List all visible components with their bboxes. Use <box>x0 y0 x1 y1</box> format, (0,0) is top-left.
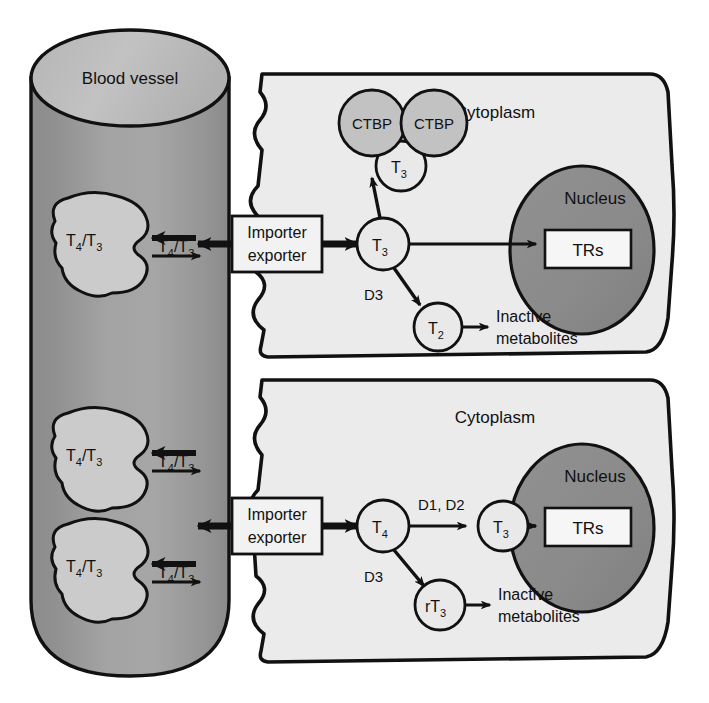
upper-t2-circle <box>414 303 462 351</box>
ctbp-label-2: CTBP <box>414 115 454 132</box>
lower-inactive-label-2: metabolites <box>498 608 580 625</box>
upper-cytoplasmic-t3 <box>357 218 409 270</box>
protein-blob-2: T4/T3 <box>52 407 148 511</box>
lower-nucleus-label: Nucleus <box>564 467 625 486</box>
upper-inactive-label-2: metabolites <box>496 330 578 347</box>
lower-t3-circle <box>478 501 528 551</box>
pathway-diagram-svg: Blood vessel T4/T3 T4/T3 T4/T3 T4/T3 T4/… <box>0 0 709 703</box>
upper-cell: Cytoplasm Nucleus TRs Importer exporter … <box>198 74 674 357</box>
blood-vessel-label: Blood vessel <box>82 69 178 88</box>
lower-t4-circle <box>357 500 409 552</box>
protein-blob-1: T4/T3 <box>52 192 148 296</box>
lower-cytoplasm-label: Cytoplasm <box>455 408 535 427</box>
lower-d1d2-label: D1, D2 <box>418 496 465 513</box>
ctbp-label-1: CTBP <box>352 115 392 132</box>
lower-cell: Cytoplasm Nucleus TRs Importer exporter … <box>198 380 674 662</box>
upper-d3-label: D3 <box>364 286 383 303</box>
upper-receptor-label: TRs <box>572 241 603 260</box>
lower-transporter-label-2: exporter <box>248 529 307 546</box>
upper-transporter-label-2: exporter <box>248 247 307 264</box>
protein-blob-3: T4/T3 <box>52 518 148 622</box>
diagram-canvas: Blood vessel T4/T3 T4/T3 T4/T3 T4/T3 T4/… <box>0 0 709 703</box>
upper-transporter-label-1: Importer <box>247 224 307 241</box>
upper-nucleus-label: Nucleus <box>564 189 625 208</box>
lower-receptor-label: TRs <box>572 519 603 538</box>
lower-inactive-label-1: Inactive <box>498 586 553 603</box>
upper-inactive-label-1: Inactive <box>496 308 551 325</box>
lower-transporter-label-1: Importer <box>247 506 307 523</box>
lower-d3-label: D3 <box>364 568 383 585</box>
